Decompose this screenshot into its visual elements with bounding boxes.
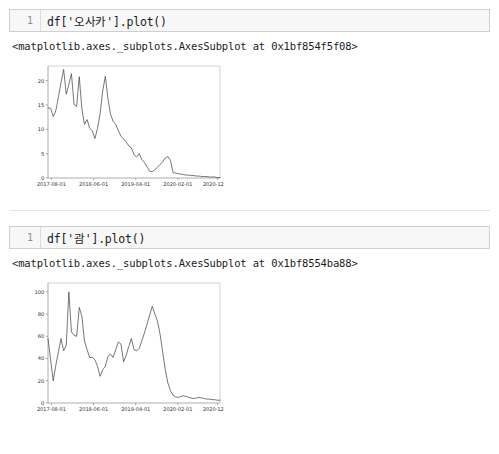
svg-text:2019-04-01: 2019-04-01 <box>121 181 150 187</box>
svg-text:2019-04-01: 2019-04-01 <box>121 406 150 412</box>
code-text: df['괌'].plot() <box>47 230 145 246</box>
svg-text:2020-12-01: 2020-12-01 <box>203 181 224 187</box>
svg-text:20: 20 <box>38 378 45 384</box>
svg-text:10: 10 <box>38 126 45 132</box>
svg-text:2020-02-01: 2020-02-01 <box>163 406 192 412</box>
notebook-cell: 1 df['괌'].plot() <matplotlib.axes._subpl… <box>9 226 490 435</box>
cell-prompt-number: 1 <box>10 227 40 248</box>
code-input-row[interactable]: 1 df['괌'].plot() <box>9 226 490 249</box>
code-editor-area[interactable]: df['오사카'].plot() <box>40 10 489 31</box>
svg-text:20: 20 <box>38 78 45 84</box>
svg-text:5: 5 <box>41 151 44 157</box>
svg-text:2017-08-01: 2017-08-01 <box>37 406 66 412</box>
svg-text:2017-08-01: 2017-08-01 <box>37 181 66 187</box>
svg-text:0: 0 <box>41 175 44 181</box>
output-repr-text: <matplotlib.axes._subplots.AxesSubplot a… <box>10 32 490 58</box>
svg-text:2020-02-01: 2020-02-01 <box>163 181 192 187</box>
svg-text:2020-12-01: 2020-12-01 <box>203 406 224 412</box>
notebook-cell: 1 df['오사카'].plot() <matplotlib.axes._sub… <box>9 9 490 210</box>
output-repr-text: <matplotlib.axes._subplots.AxesSubplot a… <box>10 249 490 275</box>
cell-prompt-number: 1 <box>10 10 40 31</box>
line-chart-osaka: 051015202017-08-012018-06-012019-04-0120… <box>24 60 224 200</box>
cell-output: <matplotlib.axes._subplots.AxesSubplot a… <box>9 32 490 210</box>
code-input-row[interactable]: 1 df['오사카'].plot() <box>9 9 490 32</box>
cell-spacer <box>9 211 490 226</box>
notebook-container: 1 df['오사카'].plot() <matplotlib.axes._sub… <box>0 0 499 454</box>
svg-text:80: 80 <box>38 311 45 317</box>
matplotlib-figure-2: 0204060801002017-08-012018-06-012019-04-… <box>10 275 490 435</box>
svg-text:100: 100 <box>34 289 44 295</box>
svg-text:2018-06-01: 2018-06-01 <box>79 406 108 412</box>
cell-output: <matplotlib.axes._subplots.AxesSubplot a… <box>9 249 490 435</box>
svg-text:2018-06-01: 2018-06-01 <box>79 181 108 187</box>
svg-text:0: 0 <box>41 400 44 406</box>
line-chart-guam: 0204060801002017-08-012018-06-012019-04-… <box>24 277 224 425</box>
svg-text:15: 15 <box>38 102 45 108</box>
code-text: df['오사카'].plot() <box>47 13 167 29</box>
svg-text:60: 60 <box>38 333 45 339</box>
matplotlib-figure-1: 051015202017-08-012018-06-012019-04-0120… <box>10 58 490 210</box>
code-editor-area[interactable]: df['괌'].plot() <box>40 227 489 248</box>
svg-text:40: 40 <box>38 355 45 361</box>
